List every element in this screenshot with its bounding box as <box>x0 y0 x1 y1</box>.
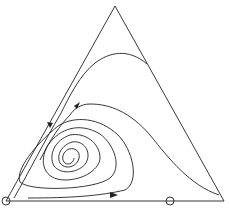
orbit-spiral <box>19 120 133 198</box>
flow-arrow-upper-icon <box>74 102 80 109</box>
flow-arrow-bottom-icon <box>110 192 118 198</box>
phase-portrait-diagram <box>0 0 229 214</box>
flow-arrow-left-icon <box>47 122 53 128</box>
orbit-outer <box>14 53 147 198</box>
orbit-middle <box>40 104 219 195</box>
